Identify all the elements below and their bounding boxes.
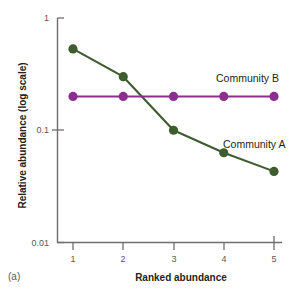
y-axis-title: Relative abundance (log scale)	[17, 36, 28, 236]
data-point-community-a-3	[169, 126, 178, 135]
data-point-community-a-5	[269, 167, 278, 176]
annotation-community-a: Community A	[223, 138, 285, 150]
data-point-community-b-1	[68, 92, 77, 101]
y-tick-label-0.1: 0.1	[36, 125, 49, 135]
rank-abundance-chart: 1 0.1 0.01 1 2 3 4 5 Community B Communi…	[0, 0, 305, 294]
annotation-community-b: Community B	[216, 72, 279, 84]
data-point-community-b-3	[169, 92, 178, 101]
data-point-community-a-1	[68, 44, 77, 53]
x-tick-label-3: 3	[171, 254, 176, 264]
y-tick-label-0.01: 0.01	[31, 238, 49, 248]
rank-abundance-figure: 1 0.1 0.01 1 2 3 4 5 Community B Communi…	[0, 0, 305, 294]
series-line-community-a	[73, 49, 274, 171]
data-point-community-b-5	[269, 92, 278, 101]
panel-letter: (a)	[8, 271, 20, 282]
x-tick-label-4: 4	[221, 254, 226, 264]
x-tick-label-1: 1	[70, 254, 75, 264]
y-tick-label-1: 1	[44, 13, 49, 23]
x-axis-title: Ranked abundance	[57, 272, 305, 283]
data-series-layer	[68, 44, 278, 176]
x-tick-label-2: 2	[120, 254, 125, 264]
data-point-community-b-4	[219, 92, 228, 101]
data-point-community-b-2	[119, 92, 128, 101]
data-point-community-a-2	[119, 72, 128, 81]
x-tick-label-5: 5	[271, 254, 276, 264]
